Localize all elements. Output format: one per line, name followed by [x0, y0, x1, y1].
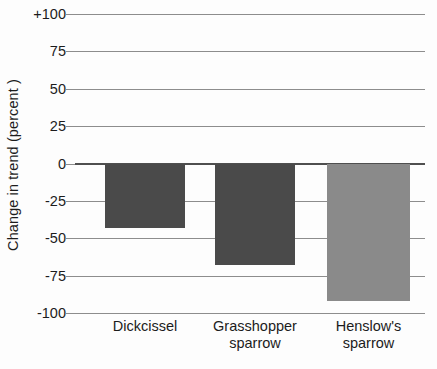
x-tick-label-line: Grasshopper	[190, 318, 320, 335]
x-tick-label-line: sparrow	[304, 335, 434, 352]
gridline	[75, 313, 425, 314]
y-tick-mark	[66, 126, 75, 127]
y-tick-label: 75	[8, 43, 66, 59]
x-tick-label: Henslow'ssparrow	[304, 318, 434, 352]
y-tick-label: -25	[8, 193, 66, 209]
gridline	[75, 51, 425, 52]
plot-area	[75, 14, 425, 313]
y-tick-label: -75	[8, 268, 66, 284]
y-tick-mark	[66, 164, 75, 165]
y-tick-label: -50	[8, 230, 66, 246]
y-tick-mark	[66, 276, 75, 277]
y-tick-label: 50	[8, 81, 66, 97]
y-tick-label: 0	[8, 156, 66, 172]
x-tick-label: Grasshoppersparrow	[190, 318, 320, 352]
x-tick-label-line: sparrow	[190, 335, 320, 352]
gridline	[75, 89, 425, 90]
y-tick-label: +100	[8, 6, 66, 22]
bar	[327, 164, 410, 302]
bar	[105, 164, 185, 228]
y-tick-mark	[66, 89, 75, 90]
bar	[215, 164, 295, 266]
x-axis-tick-labels: DickcisselGrasshoppersparrowHenslow'sspa…	[75, 318, 425, 366]
y-tick-mark	[66, 238, 75, 239]
y-tick-label: 25	[8, 118, 66, 134]
y-tick-mark	[66, 201, 75, 202]
y-tick-label: -100	[8, 305, 66, 321]
bar-chart: Change in trend (percent ) +1007550250-2…	[0, 0, 437, 369]
y-tick-mark	[66, 14, 75, 15]
x-tick-label-line: Henslow's	[304, 318, 434, 335]
y-tick-mark	[66, 51, 75, 52]
y-tick-mark	[66, 313, 75, 314]
gridline	[75, 126, 425, 127]
gridline	[75, 14, 425, 15]
